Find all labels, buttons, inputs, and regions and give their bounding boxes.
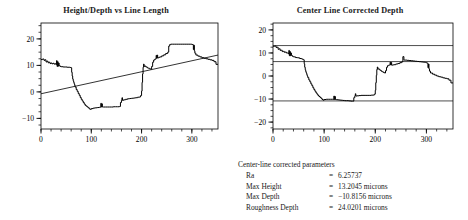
- parameter-value: 24.0201 microns: [338, 203, 388, 213]
- y-tick-label: 0: [30, 88, 34, 97]
- x-tick-label: 0: [271, 135, 275, 144]
- parameters-heading: Center-line corrected parameters: [238, 160, 466, 170]
- parameter-row-max-depth: Max Depth = −10.8156 microns: [238, 192, 466, 202]
- parameter-label: Ra: [246, 171, 329, 181]
- parameter-row-max-height: Max Height = 13.2045 microns: [238, 182, 466, 192]
- series-profile: [41, 44, 218, 109]
- x-tick-label: 200: [136, 135, 148, 144]
- right-chart-panel: Center Line Corrected Depth −20−10010200…: [232, 0, 468, 156]
- x-tick-label: 100: [86, 135, 98, 144]
- x-tick-label: 0: [39, 135, 43, 144]
- height-depth-vs-line-length-plot: −10010200100200300: [0, 0, 232, 156]
- y-tick-label: 10: [258, 49, 266, 58]
- y-tick-label: 20: [258, 26, 266, 35]
- y-tick-label: 20: [26, 35, 34, 44]
- series-least-squares-center-line: [41, 55, 218, 94]
- y-tick-label: −10: [22, 114, 34, 123]
- x-tick-label: 300: [186, 135, 198, 144]
- parameter-equals: =: [329, 171, 338, 181]
- plot-frame: [41, 23, 218, 129]
- y-tick-label: 0: [262, 72, 266, 81]
- parameter-label: Roughness Depth: [246, 203, 329, 213]
- left-chart-panel: Height/Depth vs Line Length −10010200100…: [0, 0, 232, 156]
- parameter-equals: =: [329, 203, 338, 213]
- plot-frame: [273, 23, 453, 129]
- parameter-value: −10.8156 microns: [338, 192, 392, 202]
- parameter-row-ra: Ra = 6.25737: [238, 171, 466, 181]
- parameter-equals: =: [329, 192, 338, 202]
- parameter-label: Max Depth: [246, 192, 329, 202]
- parameter-value: 13.2045 microns: [338, 182, 388, 192]
- y-tick-label: 10: [26, 61, 34, 70]
- y-tick-label: −20: [254, 118, 266, 127]
- center-line-corrected-depth-plot: −20−10010200100200300: [232, 0, 468, 156]
- x-tick-label: 300: [421, 135, 433, 144]
- parameter-row-roughness-depth: Roughness Depth = 24.0201 microns: [238, 203, 466, 213]
- parameter-equals: =: [329, 182, 338, 192]
- x-tick-label: 200: [370, 135, 382, 144]
- x-tick-label: 100: [318, 135, 330, 144]
- series-corrected-profile: [273, 46, 453, 101]
- parameter-label: Max Height: [246, 182, 329, 192]
- parameter-value: 6.25737: [338, 171, 362, 181]
- center-line-corrected-parameters: Center-line corrected parameters Ra = 6.…: [238, 160, 466, 213]
- y-tick-label: −10: [254, 95, 266, 104]
